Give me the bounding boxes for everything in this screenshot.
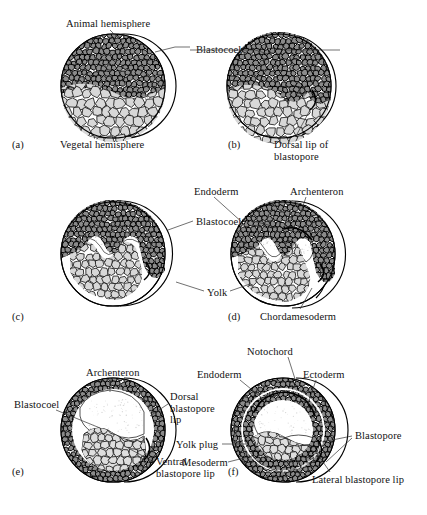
panel-d-svg <box>228 196 358 324</box>
panel-letter-f: (f) <box>228 466 239 477</box>
dorsal-bl-line1: Dorsal <box>170 391 199 402</box>
gastrulation-figure: Animal hemisphere Vegetal hemisphere (a)… <box>0 0 427 515</box>
dorsal-bl-line2: blastopore <box>170 403 215 414</box>
label-yolk: Yolk <box>207 287 227 299</box>
dorsal-lip-line2: blastopore <box>274 151 319 162</box>
panel-a-embryo <box>58 28 183 148</box>
panel-b-svg <box>224 28 349 153</box>
panel-letter-d: (d) <box>228 311 240 322</box>
label-lateral-blastopore-lip: Lateral blastopore lip <box>312 474 404 486</box>
label-endoderm-f: Endoderm <box>197 369 242 381</box>
dorsal-lip-line1: Dorsal lip of <box>274 139 328 150</box>
panel-c-embryo <box>58 196 188 318</box>
label-animal-hemisphere: Animal hemisphere <box>66 18 150 30</box>
label-blastocoel-e: Blastocoel <box>14 399 59 411</box>
label-blastocoel-b: Blastocoel <box>196 44 241 56</box>
label-dorsal-lip-of-blastopore: Dorsal lip ofblastopore <box>274 139 328 162</box>
panel-letter-e: (e) <box>12 466 24 477</box>
panel-a-svg <box>58 28 183 148</box>
label-vegetal-hemisphere: Vegetal hemisphere <box>60 139 144 151</box>
panel-d-embryo <box>228 196 358 324</box>
label-yolk-plug: Yolk plug <box>176 439 218 451</box>
panel-c-svg <box>58 196 188 318</box>
label-chordamesoderm: Chordamesoderm <box>260 311 336 323</box>
label-blastopore: Blastopore <box>355 430 402 442</box>
label-dorsal-blastopore-lip: Dorsalblastoporelip <box>170 391 215 426</box>
label-endoderm-d: Endoderm <box>194 186 239 198</box>
panel-letter-b: (b) <box>228 139 240 150</box>
label-notochord: Notochord <box>247 346 293 358</box>
dorsal-bl-line3: lip <box>170 414 181 425</box>
panel-b-embryo <box>224 28 349 153</box>
label-archenteron-e: Archenteron <box>86 367 140 379</box>
panel-letter-c: (c) <box>12 311 24 322</box>
label-ectoderm: Ectoderm <box>303 369 345 381</box>
panel-letter-a: (a) <box>12 139 24 150</box>
ventral-line2: blastopore lip <box>156 468 215 479</box>
label-mesoderm: Mesoderm <box>182 457 228 469</box>
label-archenteron-d: Archenteron <box>290 186 344 198</box>
